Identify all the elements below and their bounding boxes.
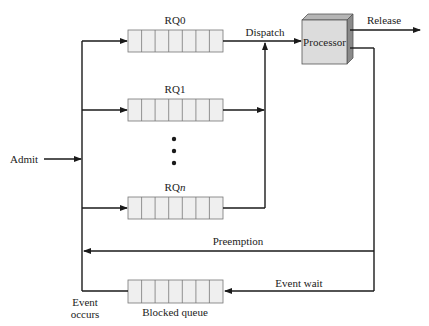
preemption-label: Preemption (213, 235, 264, 247)
ellipsis-dot (172, 137, 176, 141)
dispatch-label: Dispatch (245, 26, 285, 38)
processor-label: Processor (303, 36, 346, 48)
rq0-queue (128, 30, 223, 52)
ellipsis-dot (172, 149, 176, 153)
blocked-queue-label: Blocked queue (142, 306, 208, 318)
rq1-label: RQ1 (165, 83, 186, 95)
admit-label: Admit (10, 153, 38, 165)
event-occurs-label-1: Event (72, 296, 98, 308)
blocked-queue (128, 280, 223, 303)
release-label: Release (367, 14, 401, 26)
rq1-queue (128, 99, 223, 121)
event-wait-label: Event wait (275, 277, 322, 289)
rqn-label: RQn (165, 181, 186, 193)
scheduling-diagram: Admit RQ0 RQ1 RQn (0, 0, 429, 326)
event-occurs-label-2: occurs (71, 308, 100, 320)
ellipsis-dot (172, 161, 176, 165)
rq0-label: RQ0 (165, 14, 186, 26)
rqn-queue (128, 197, 223, 219)
